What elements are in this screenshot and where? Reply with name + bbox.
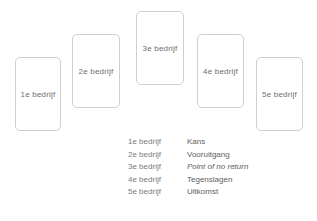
card-label: 2e bedrijf <box>79 67 114 76</box>
card-4e-bedrijf[interactable]: 4e bedrijf <box>197 34 244 108</box>
legend-value: Point of no return <box>187 162 248 171</box>
card-label: 5e bedrijf <box>262 90 297 99</box>
legend-row: 4e bedrijf Tegenslagen <box>128 175 248 188</box>
card-3e-bedrijf[interactable]: 3e bedrijf <box>136 11 184 85</box>
card-label: 1e bedrijf <box>21 90 56 99</box>
legend-row: 2e bedrijf Vooruitgang <box>128 150 248 163</box>
legend-key: 2e bedrijf <box>128 150 187 159</box>
card-2e-bedrijf[interactable]: 2e bedrijf <box>72 34 120 108</box>
card-label: 4e bedrijf <box>203 67 238 76</box>
legend-value: Kans <box>187 137 205 146</box>
legend: 1e bedrijf Kans 2e bedrijf Vooruitgang 3… <box>128 137 248 200</box>
card-label: 3e bedrijf <box>143 44 178 53</box>
legend-key: 1e bedrijf <box>128 137 187 146</box>
legend-key: 5e bedrijf <box>128 187 187 196</box>
legend-key: 4e bedrijf <box>128 175 187 184</box>
legend-value: Tegenslagen <box>187 175 232 184</box>
legend-value: Uitkomst <box>187 187 218 196</box>
legend-row: 5e bedrijf Uitkomst <box>128 187 248 200</box>
diagram-canvas: 1e bedrijf 2e bedrijf 3e bedrijf 4e bedr… <box>0 0 317 221</box>
legend-row: 3e bedrijf Point of no return <box>128 162 248 175</box>
card-1e-bedrijf[interactable]: 1e bedrijf <box>15 57 61 131</box>
legend-key: 3e bedrijf <box>128 162 187 171</box>
legend-row: 1e bedrijf Kans <box>128 137 248 150</box>
legend-value: Vooruitgang <box>187 150 230 159</box>
card-5e-bedrijf[interactable]: 5e bedrijf <box>256 57 303 131</box>
